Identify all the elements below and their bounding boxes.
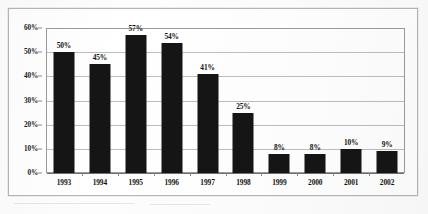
bar-1993 (53, 52, 74, 173)
x-tick-mark (369, 173, 370, 176)
x-category-label-1995: 1995 (129, 178, 143, 187)
bars-layer: 50%45%57%54%41%25%8%8%10%9% (46, 28, 405, 173)
bar-group: 8% (297, 28, 333, 173)
x-category-label-1999: 1999 (272, 178, 286, 187)
x-category-label-1993: 1993 (57, 178, 71, 187)
bar-1995 (125, 35, 146, 173)
x-category-label-1996: 1996 (164, 178, 178, 187)
bar-1997 (197, 74, 218, 173)
y-tick-mark-0 (38, 173, 42, 174)
x-tick-mark (261, 173, 262, 176)
bar-value-label-2000: 8% (310, 143, 321, 152)
bar-group: 57% (118, 28, 154, 173)
y-tick-mark-40 (38, 76, 42, 77)
bar-2001 (341, 149, 362, 173)
x-axis: 1993199419951996199719981999200020012002 (46, 178, 405, 192)
bar-chart-figure: 0%10%20%30%40%50%60% 50%45%57%54%41%25%8… (8, 8, 418, 196)
bar-2000 (305, 154, 326, 173)
x-category-label-2001: 2001 (344, 178, 358, 187)
bar-2002 (377, 151, 398, 173)
bar-group: 50% (46, 28, 82, 173)
x-category-label-2000: 2000 (308, 178, 322, 187)
scanned-page-background: 0%10%20%30%40%50%60% 50%45%57%54%41%25%8… (0, 0, 428, 214)
y-tick-label-40: 40% (24, 72, 38, 80)
x-category-label-2002: 2002 (380, 178, 394, 187)
y-tick-mark-30 (38, 100, 42, 101)
bar-value-label-1999: 8% (274, 143, 285, 152)
bar-value-label-1998: 25% (236, 102, 250, 111)
bar-1998 (233, 113, 254, 173)
bar-group: 8% (261, 28, 297, 173)
y-tick-label-30: 30% (24, 97, 38, 105)
y-tick-label-60: 60% (24, 24, 38, 32)
x-tick-mark (333, 173, 334, 176)
bar-1996 (161, 43, 182, 174)
y-tick-label-0: 0% (27, 169, 38, 177)
bar-value-label-1996: 54% (164, 32, 178, 41)
y-tick-label-10: 10% (24, 145, 38, 153)
y-tick-mark-10 (38, 148, 42, 149)
x-tick-mark (297, 173, 298, 176)
y-tick-label-20: 20% (24, 121, 38, 129)
x-tick-mark (154, 173, 155, 176)
x-tick-mark (226, 173, 227, 176)
x-category-label-1997: 1997 (200, 178, 214, 187)
x-tick-mark (82, 173, 83, 176)
bar-value-label-2002: 9% (382, 140, 393, 149)
scan-artifact (150, 204, 210, 205)
bar-1994 (89, 64, 110, 173)
x-tick-mark (118, 173, 119, 176)
bar-group: 9% (369, 28, 405, 173)
bar-group: 10% (333, 28, 369, 173)
bar-group: 54% (154, 28, 190, 173)
scan-artifact (14, 203, 134, 204)
y-tick-mark-50 (38, 52, 42, 53)
y-tick-mark-20 (38, 124, 42, 125)
x-tick-mark (190, 173, 191, 176)
x-category-label-1998: 1998 (236, 178, 250, 187)
bar-1999 (269, 154, 290, 173)
y-tick-mark-60 (38, 28, 42, 29)
x-category-label-1994: 1994 (93, 178, 107, 187)
bar-group: 45% (82, 28, 118, 173)
bar-value-label-1995: 57% (129, 24, 143, 33)
bar-value-label-1997: 41% (200, 63, 214, 72)
bar-group: 41% (190, 28, 226, 173)
bar-group: 25% (226, 28, 262, 173)
bar-value-label-1994: 45% (93, 53, 107, 62)
x-axis-ticks (46, 173, 405, 177)
bar-value-label-2001: 10% (344, 138, 358, 147)
y-axis: 0%10%20%30%40%50%60% (8, 28, 42, 173)
bar-value-label-1993: 50% (57, 41, 71, 50)
y-tick-label-50: 50% (24, 48, 38, 56)
